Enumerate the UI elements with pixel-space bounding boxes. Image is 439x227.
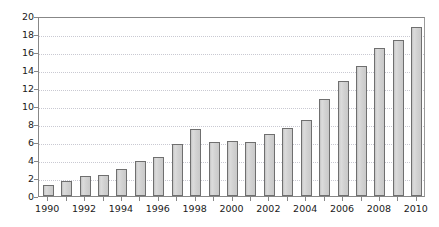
x-axis-tick: [121, 197, 122, 201]
y-axis-tick-label: 0: [6, 192, 34, 202]
x-axis-tick: [158, 197, 159, 201]
bar: [301, 120, 312, 197]
bar: [411, 27, 422, 196]
x-axis-tick-label: 2002: [248, 203, 288, 214]
bar: [153, 157, 164, 196]
x-axis-tick-label: 2004: [285, 203, 325, 214]
bar: [135, 161, 146, 196]
bar: [393, 40, 404, 196]
x-axis-tick-label: 1990: [27, 203, 67, 214]
bar: [356, 66, 367, 197]
y-axis: 02468101214161820: [0, 0, 34, 227]
x-axis-tick: [103, 197, 104, 201]
bar: [190, 129, 201, 196]
x-axis-tick: [324, 197, 325, 201]
bar: [245, 142, 256, 196]
bar: [80, 176, 91, 196]
y-axis-tick-label: 18: [6, 30, 34, 40]
y-axis-tick-label: 20: [6, 12, 34, 22]
x-axis-tick: [139, 197, 140, 201]
x-axis-tick: [287, 197, 288, 201]
bars-layer: [39, 18, 424, 196]
bar: [319, 99, 330, 196]
x-axis-tick-label: 1994: [101, 203, 141, 214]
bar: [172, 144, 183, 196]
y-axis-tick-label: 14: [6, 66, 34, 76]
x-axis-tick-label: 2006: [322, 203, 362, 214]
x-axis-tick: [379, 197, 380, 201]
bar: [209, 142, 220, 196]
y-axis-tick-label: 4: [6, 156, 34, 166]
x-axis-tick: [66, 197, 67, 201]
x-axis-tick: [397, 197, 398, 201]
x-axis-tick: [342, 197, 343, 201]
plot-area: [38, 17, 425, 197]
x-axis-tick: [250, 197, 251, 201]
y-axis-tick-label: 10: [6, 102, 34, 112]
x-axis-tick: [176, 197, 177, 201]
x-axis-tick: [305, 197, 306, 201]
bar: [264, 134, 275, 196]
x-axis-tick-label: 1992: [64, 203, 104, 214]
x-axis-tick: [213, 197, 214, 201]
x-axis-tick-label: 2008: [359, 203, 399, 214]
y-axis-tick-label: 2: [6, 174, 34, 184]
x-axis-tick-label: 2010: [396, 203, 436, 214]
x-axis-tick: [232, 197, 233, 201]
x-axis-tick: [416, 197, 417, 201]
bar-chart: 02468101214161820 1990199219941996199820…: [0, 0, 439, 227]
bar: [98, 175, 109, 196]
x-axis-tick-label: 1996: [138, 203, 178, 214]
bar: [43, 185, 54, 196]
x-axis-tick-label: 2000: [212, 203, 252, 214]
y-axis-tick: [34, 197, 38, 198]
x-axis-tick: [84, 197, 85, 201]
bar: [61, 181, 72, 196]
bar: [116, 169, 127, 196]
bar: [282, 128, 293, 196]
x-axis-tick: [195, 197, 196, 201]
y-axis-tick-label: 6: [6, 138, 34, 148]
x-axis-tick: [47, 197, 48, 201]
bar: [227, 141, 238, 196]
y-axis-tick-label: 8: [6, 120, 34, 130]
y-axis-tick-label: 12: [6, 84, 34, 94]
bar: [338, 81, 349, 196]
bar: [374, 48, 385, 196]
x-axis-tick: [268, 197, 269, 201]
x-axis-tick: [361, 197, 362, 201]
x-axis-tick-label: 1998: [175, 203, 215, 214]
y-axis-tick-label: 16: [6, 48, 34, 58]
